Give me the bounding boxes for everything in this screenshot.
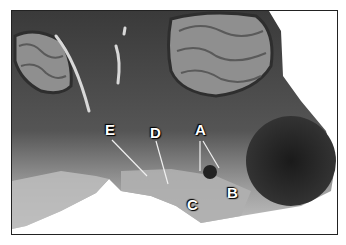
histology-section-image: [12, 11, 337, 234]
label-b: B: [227, 185, 238, 200]
label-d: D: [150, 125, 161, 140]
label-c: C: [187, 197, 198, 212]
figure-frame: A B C D E: [11, 10, 338, 235]
label-e: E: [105, 122, 115, 137]
label-a: A: [195, 122, 206, 137]
